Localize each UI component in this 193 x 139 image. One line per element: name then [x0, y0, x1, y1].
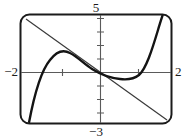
series-straight-line [26, 19, 167, 120]
label-y-min: −3 [89, 124, 103, 139]
label-x-min: −2 [4, 64, 18, 79]
graph-figure: 5 −3 −2 2 [0, 0, 193, 139]
label-x-max: 2 [175, 64, 182, 79]
label-y-max: 5 [93, 0, 100, 15]
plot-canvas: 5 −3 −2 2 [0, 0, 193, 139]
